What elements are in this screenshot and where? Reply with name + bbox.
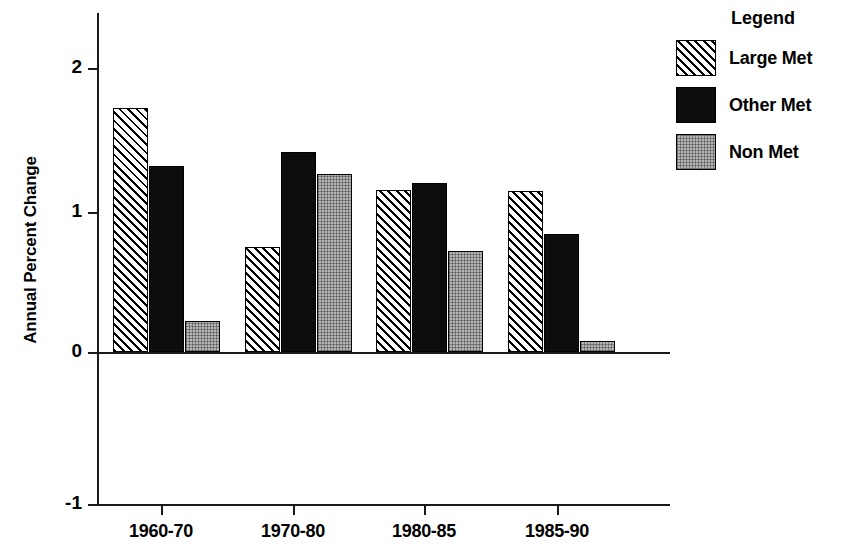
legend-label-large-met: Large Met: [729, 48, 812, 68]
y-tick-0: [88, 352, 98, 354]
y-tick-label-0: 0: [40, 341, 82, 360]
black-swatch: [676, 87, 716, 123]
x-tick-label-3: 1985-90: [492, 521, 622, 541]
bar-1980-85-other-met: [412, 183, 447, 352]
legend: Legend Large Met Other Met Non Met: [676, 8, 849, 181]
y-tick-2: [88, 68, 98, 70]
x-tick-1985-90: [557, 506, 559, 515]
y-tick-neg1: [88, 504, 98, 506]
y-tick-1: [88, 212, 98, 214]
y-axis-line: [97, 13, 99, 506]
zero-baseline: [97, 352, 670, 354]
x-tick-1960-70: [161, 506, 163, 515]
bar-1985-90-other-met: [544, 234, 579, 352]
legend-item-non-met[interactable]: Non Met: [676, 134, 849, 170]
x-tick-1970-80: [293, 506, 295, 515]
hatched-swatch: [676, 40, 716, 76]
x-tick-label-0: 1960-70: [96, 521, 226, 541]
gray-swatch: [676, 134, 716, 170]
x-tick-1980-85: [424, 506, 426, 515]
legend-label-other-met: Other Met: [729, 95, 811, 115]
legend-label-non-met: Non Met: [729, 142, 799, 162]
y-tick-label-2: 2: [40, 57, 82, 76]
x-tick-label-1: 1970-80: [228, 521, 358, 541]
bar-1970-80-large-met: [245, 247, 280, 352]
bar-1960-70-non-met: [185, 321, 220, 352]
bar-1980-85-non-met: [448, 251, 483, 352]
legend-item-other-met[interactable]: Other Met: [676, 87, 849, 123]
bar-1970-80-non-met: [317, 174, 352, 352]
bar-1960-70-other-met: [149, 166, 184, 352]
legend-item-large-met[interactable]: Large Met: [676, 40, 849, 76]
bar-1960-70-large-met: [113, 108, 148, 352]
legend-title: Legend: [688, 8, 838, 28]
bar-1980-85-large-met: [376, 190, 411, 352]
bar-chart: Annual Percent Change 2 1 0 -1 1960-70 1…: [0, 0, 849, 560]
y-tick-label-1: 1: [40, 201, 82, 220]
bar-1970-80-other-met: [281, 152, 316, 352]
x-tick-label-2: 1980-85: [359, 521, 489, 541]
y-tick-label-neg1: -1: [40, 493, 82, 512]
x-axis-line: [97, 504, 670, 506]
bar-1985-90-non-met: [580, 341, 615, 352]
bar-1985-90-large-met: [508, 191, 543, 352]
